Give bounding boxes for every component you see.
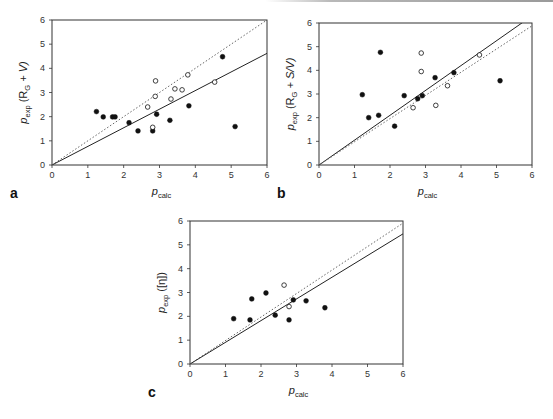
plot-frame — [319, 23, 532, 165]
y-tick-label: 6 — [40, 15, 45, 25]
filled-data-point — [167, 118, 172, 123]
figure-canvas: 01234560123456pcalcpexp (RG + V)a 012345… — [0, 0, 553, 419]
open-data-point — [419, 69, 424, 74]
open-data-point — [150, 125, 155, 130]
chart-a: 01234560123456pcalcpexp (RG + V)a — [10, 15, 270, 201]
x-tick-label: 3 — [423, 170, 428, 180]
y-tick-label: 4 — [178, 264, 183, 274]
x-tick-label: 4 — [329, 369, 334, 379]
y-tick-label: 0 — [307, 160, 312, 170]
filled-data-point — [291, 297, 296, 302]
open-data-point — [287, 304, 292, 309]
y-tick-label: 3 — [40, 88, 45, 98]
y-tick-label: 2 — [40, 112, 45, 122]
x-tick-label: 2 — [121, 170, 126, 180]
fit-line — [52, 53, 267, 165]
filled-data-point — [415, 96, 420, 101]
open-data-point — [445, 83, 450, 88]
y-axis-label: pexp ([η]) — [155, 272, 170, 314]
x-tick-label: 0 — [316, 170, 321, 180]
open-data-point — [145, 105, 150, 110]
filled-data-point — [186, 103, 191, 108]
filled-data-point — [420, 93, 425, 98]
y-tick-label: 3 — [307, 89, 312, 99]
x-tick-label: 4 — [458, 170, 463, 180]
filled-data-point — [433, 75, 438, 80]
x-tick-label: 5 — [229, 170, 234, 180]
y-tick-label: 0 — [40, 160, 45, 170]
y-tick-label: 5 — [307, 42, 312, 52]
y-tick-label: 0 — [178, 359, 183, 369]
open-data-point — [173, 87, 178, 92]
filled-data-point — [376, 113, 381, 118]
open-data-point — [433, 103, 438, 108]
filled-data-point — [360, 92, 365, 97]
filled-data-point — [273, 313, 278, 318]
filled-data-point — [304, 298, 309, 303]
filled-data-point — [127, 120, 132, 125]
filled-data-point — [264, 291, 269, 296]
open-data-point — [180, 88, 185, 93]
y-tick-label: 4 — [307, 65, 312, 75]
filled-data-point — [101, 115, 106, 120]
filled-data-point — [136, 129, 141, 134]
open-data-point — [419, 51, 424, 56]
panel-label-b: b — [277, 185, 286, 201]
y-tick-label: 1 — [307, 136, 312, 146]
filled-data-point — [249, 297, 254, 302]
x-tick-label: 5 — [365, 369, 370, 379]
y-tick-label: 4 — [40, 63, 45, 73]
filled-data-point — [366, 115, 371, 120]
open-data-point — [282, 283, 287, 288]
fit-line — [190, 234, 403, 364]
y-axis-label: pexp (RG + S/V) — [284, 57, 299, 131]
y-tick-label: 5 — [40, 39, 45, 49]
y-axis-label: pexp (RG + V) — [17, 61, 32, 125]
filled-data-point — [220, 54, 225, 59]
x-tick-label: 3 — [294, 369, 299, 379]
open-data-point — [153, 79, 158, 84]
filled-data-point — [113, 115, 118, 120]
x-axis-label: pcalc — [288, 384, 309, 399]
y-tick-label: 2 — [307, 113, 312, 123]
x-tick-label: 6 — [529, 170, 534, 180]
panel-label-c: c — [148, 384, 156, 400]
filled-data-point — [287, 318, 292, 323]
x-tick-label: 1 — [352, 170, 357, 180]
open-data-point — [169, 97, 174, 102]
filled-data-point — [402, 93, 407, 98]
x-tick-label: 2 — [258, 369, 263, 379]
x-tick-label: 5 — [494, 170, 499, 180]
y-tick-label: 5 — [178, 240, 183, 250]
y-tick-label: 6 — [178, 216, 183, 226]
x-axis-label: pcalc — [151, 185, 172, 200]
filled-data-point — [498, 78, 503, 83]
open-data-point — [411, 105, 416, 110]
open-data-point — [477, 53, 482, 58]
identity-line — [190, 223, 403, 364]
filled-data-point — [154, 112, 159, 117]
chart-c: 01234560123456pcalcpexp ([η])c — [148, 216, 406, 400]
y-tick-label: 1 — [40, 136, 45, 146]
identity-line — [319, 26, 532, 165]
x-tick-label: 0 — [49, 170, 54, 180]
x-tick-label: 2 — [387, 170, 392, 180]
y-tick-label: 3 — [178, 288, 183, 298]
filled-data-point — [248, 318, 253, 323]
filled-data-point — [452, 70, 457, 75]
filled-data-point — [233, 124, 238, 129]
filled-data-point — [323, 305, 328, 310]
identity-line — [52, 20, 267, 165]
x-tick-label: 6 — [400, 369, 405, 379]
x-tick-label: 1 — [85, 170, 90, 180]
open-data-point — [186, 73, 191, 78]
x-axis-label: pcalc — [417, 185, 438, 200]
x-tick-label: 4 — [193, 170, 198, 180]
y-tick-label: 6 — [307, 18, 312, 28]
y-tick-label: 2 — [178, 311, 183, 321]
filled-data-point — [378, 50, 383, 55]
x-tick-label: 1 — [223, 369, 228, 379]
y-tick-label: 1 — [178, 335, 183, 345]
x-tick-label: 0 — [187, 369, 192, 379]
fit-line — [319, 16, 532, 165]
